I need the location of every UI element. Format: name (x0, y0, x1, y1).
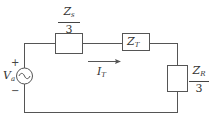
current-label: IT (97, 66, 106, 79)
impedance-zs-label: Zs 3 (58, 6, 80, 35)
impedance-zs-box (56, 34, 83, 54)
source-minus-sign: − (11, 86, 19, 96)
zs-denominator: 3 (66, 24, 73, 35)
circuit-wires (0, 0, 212, 124)
impedance-zt-label: ZT (127, 36, 139, 49)
circuit-diagram: Zs 3 ZT ZR 3 + − Va IT (0, 0, 212, 124)
zs-numerator: Zs (61, 6, 76, 21)
source-plus-sign: + (11, 58, 19, 68)
impedance-zr-box (168, 66, 188, 92)
zr-numerator: ZR (191, 65, 208, 80)
impedance-zr-label: ZR 3 (189, 65, 209, 94)
source-voltage-label: Va (3, 70, 15, 83)
zr-denominator: 3 (196, 83, 203, 94)
